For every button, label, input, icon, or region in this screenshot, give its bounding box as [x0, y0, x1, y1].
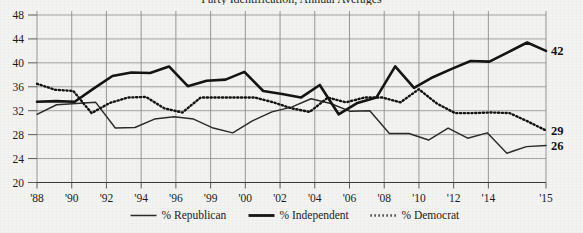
y-axis-tick-label: 24: [13, 153, 25, 165]
legend-label: % Democrat: [402, 209, 461, 221]
x-axis-tick-label: '06: [343, 192, 357, 204]
y-axis-tick-label: 48: [13, 9, 25, 21]
x-axis-labels: '88'90'92'94'96'99'00'02'04'06'08'10'12'…: [30, 192, 553, 204]
legend-item: % Independent: [249, 209, 350, 222]
legend-item: % Republican: [131, 209, 227, 222]
x-axis-tick-label: '08: [377, 192, 391, 204]
x-axis-tick-label: '10: [412, 192, 426, 204]
legend-item: % Democrat: [371, 209, 461, 221]
chart-legend: % Republican% Independent% Democrat: [131, 209, 461, 222]
x-axis-tick-label: '00: [239, 192, 253, 204]
series-line-independent: [37, 43, 546, 115]
series-line-republican: [37, 99, 546, 153]
y-axis-tick-label: 28: [13, 129, 25, 141]
x-axis-tick-label: '94: [134, 192, 148, 204]
x-axis-tick-label: '96: [169, 192, 183, 204]
x-axis-tick-label: '92: [100, 192, 114, 204]
line-chart: 2024283236404448 '88'90'92'94'96'99'00'0…: [0, 0, 583, 233]
x-axis-tick-label: '12: [447, 192, 461, 204]
y-axis-tick-label: 20: [13, 177, 25, 189]
y-axis-tick-label: 36: [13, 81, 25, 93]
end-value-labels: 264229: [551, 44, 564, 153]
data-series-layer: [37, 43, 546, 154]
y-axis-tick-label: 44: [13, 33, 25, 45]
y-axis-tick-label: 32: [13, 105, 25, 117]
x-axis-tick-label: '90: [65, 192, 79, 204]
x-axis-tick-label: '02: [273, 192, 287, 204]
end-label-independent: 42: [551, 44, 564, 58]
y-axis-labels: 2024283236404448: [13, 9, 38, 189]
x-axis-tick-label: '88: [30, 192, 44, 204]
legend-label: % Republican: [162, 209, 227, 222]
x-axis-tick-label: '04: [308, 192, 322, 204]
end-label-democrat: 29: [551, 124, 564, 138]
legend-label: % Independent: [280, 209, 350, 222]
chart-svg: 2024283236404448 '88'90'92'94'96'99'00'0…: [0, 0, 583, 233]
x-axis-tick-label: '14: [482, 192, 496, 204]
x-axis-tick-label: '15: [539, 192, 553, 204]
y-axis-tick-label: 40: [13, 57, 25, 69]
end-label-republican: 26: [551, 139, 564, 153]
x-axis-tick-label: '99: [204, 192, 218, 204]
x-axis-ticks: [37, 183, 546, 189]
